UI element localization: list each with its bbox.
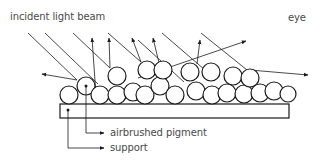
pigment-particle	[218, 84, 236, 102]
pigment-particle	[60, 86, 78, 104]
support-layer	[60, 104, 289, 118]
reflected-ray-arrow	[197, 40, 200, 64]
incident-ray	[108, 33, 141, 62]
pigment-particle	[181, 63, 199, 81]
pigment-particle	[224, 67, 242, 85]
support-label: support	[110, 143, 148, 153]
incident-light-beam-label: incident light beam	[10, 12, 105, 22]
airbrushed-pigment-label: airbrushed pigment	[110, 128, 207, 138]
incident-ray	[73, 33, 110, 68]
reflected-ray-arrow	[109, 38, 110, 68]
support-marker-dot	[67, 109, 70, 112]
pigment-particle	[91, 86, 109, 104]
pigment-particle	[154, 61, 172, 79]
incident-ray	[45, 33, 98, 84]
pigment-particle	[235, 85, 253, 103]
eye-label: eye	[288, 13, 306, 23]
pigment-marker-dot	[85, 85, 88, 88]
pigment-particle	[280, 86, 296, 102]
pigment-particle	[138, 61, 156, 79]
pigment-particle	[108, 67, 126, 85]
pigment-particle	[202, 63, 220, 81]
pigment-particle	[187, 82, 205, 100]
pigment-particle	[166, 86, 184, 104]
pigment-particle	[108, 86, 126, 104]
